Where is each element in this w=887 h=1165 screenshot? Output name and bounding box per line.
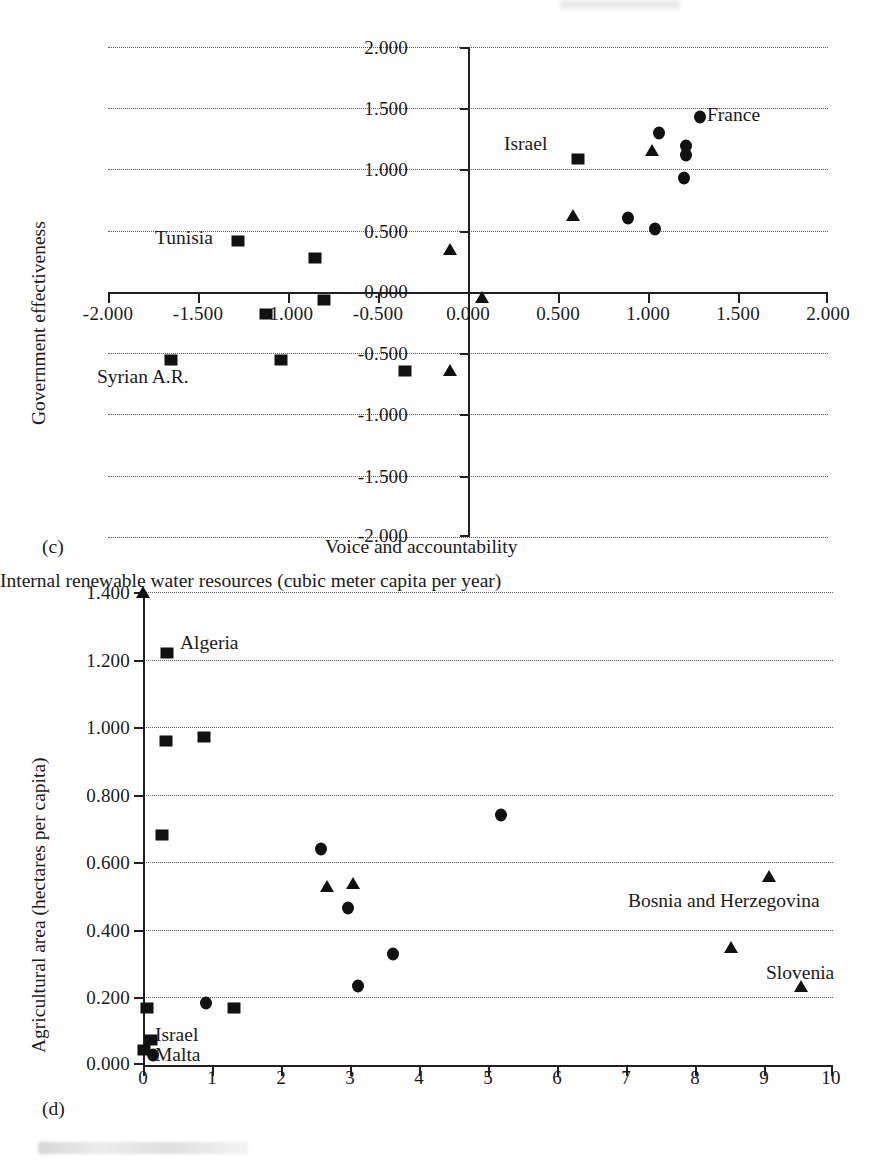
data-point-circle [387,947,399,960]
data-point-square-algeria [161,647,174,658]
data-point-circle [622,212,634,225]
y-tick [134,660,145,662]
x-tick [738,292,740,303]
panel-d-y-tick-label: 0.400 [58,920,130,942]
panel-c-y-axis-title: Government effectiveness [28,221,50,425]
panel-c-x-tick-label: -1.000 [248,303,328,325]
panel-d-x-tick-label: 5 [469,1067,507,1089]
data-point-circle [678,172,690,185]
x-tick [558,292,560,303]
panel-d-y-tick-label: 0.000 [58,1053,130,1075]
panel-c-y-tick-label: 1.500 [338,98,408,120]
data-point-triangle [475,291,489,303]
x-tick [198,292,200,303]
y-tick [134,862,145,864]
y-tick [460,535,470,537]
data-point-circle [653,127,665,140]
point-label-slovenia: Slovenia [766,962,834,984]
y-tick [460,108,470,110]
y-tick [460,476,470,478]
panel-d-x-tick-label: 9 [745,1067,783,1089]
data-point-triangle [136,586,150,598]
panel-c-y-tick-label: -1.000 [330,404,408,426]
data-point-triangle [320,880,334,892]
data-point-square [399,366,412,377]
point-label-bosnia: Bosnia and Herzegovina [628,890,820,912]
data-point-circle [342,902,354,915]
data-point-triangle [566,209,580,221]
panel-c-y-tick-label: 0.500 [338,221,408,243]
panel-c-y-tick-label: -2.000 [330,525,408,547]
panel-c-y-tick-label: -0.500 [330,343,408,365]
data-point-triangle [443,243,457,255]
data-point-circle [649,223,661,236]
panel-d-tag: (d) [42,1098,65,1120]
data-point-square [309,253,322,264]
gridline [143,862,833,863]
panel-c-scatter: Government effectiveness Voice and accou… [0,0,887,570]
gridline [143,930,833,931]
gridline [143,997,833,998]
panel-c-y-axis [468,47,470,537]
y-tick [460,169,470,171]
y-tick [134,1063,145,1065]
data-point-square [275,355,288,366]
point-label-israel: Israel [504,133,547,155]
data-point-circle [680,149,692,162]
data-point-square [198,732,211,743]
panel-c-y-tick-label: 0.000 [338,281,408,303]
panel-d-x-tick-label: 8 [676,1067,714,1089]
x-tick [826,292,828,303]
point-label-france: France [707,104,760,126]
data-point-circle [352,980,364,993]
data-point-square [165,355,178,366]
panel-d-y-axis-title: Agricultural area (hectares per capita) [28,757,50,1053]
y-tick [460,47,470,49]
panel-d-y-tick-label: 1.400 [58,582,130,604]
y-tick [460,353,470,355]
panel-d-x-tick-label: 6 [538,1067,576,1089]
panel-d-y-axis [143,592,145,1065]
panel-c-x-tick-label: 1.500 [700,303,776,325]
panel-c-x-tick-label: -2.000 [68,303,148,325]
data-point-square [156,830,169,841]
data-point-circle [200,996,212,1009]
data-point-square [141,1002,154,1013]
data-point-triangle [346,877,360,889]
figure-page: Government effectiveness Voice and accou… [0,0,887,1165]
data-point-square [228,1002,241,1013]
panel-d-y-tick-label: 0.600 [58,852,130,874]
data-point-triangle-bosnia [762,870,776,882]
panel-c-y-tick-label: -1.500 [330,466,408,488]
panel-c-x-tick-label: 2.000 [790,303,866,325]
panel-d-x-tick-label: 1 [193,1067,231,1089]
gridline [143,660,833,661]
data-point-circle [315,842,327,855]
panel-c-x-tick-label: -1.500 [158,303,238,325]
x-tick [288,292,290,303]
panel-d-x-tick-label: 3 [331,1067,369,1089]
point-label-tunisia: Tunisia [155,227,213,249]
gridline [108,537,828,538]
panel-d-x-tick-label: 2 [262,1067,300,1089]
panel-c-x-tick-label: -0.500 [338,303,418,325]
scan-artifact-caption [38,1142,248,1154]
x-tick [108,292,110,303]
panel-d-x-tick-label: 4 [400,1067,438,1089]
y-tick [460,231,470,233]
panel-d-x-tick-label: 7 [607,1067,645,1089]
panel-c-x-tick-label: 0.000 [430,303,506,325]
y-tick [134,997,145,999]
data-point-triangle [724,941,738,953]
panel-c-y-tick-label: 1.000 [338,159,408,181]
panel-d-x-tick-label: 0 [124,1067,162,1089]
panel-d-y-tick-label: 1.000 [58,717,130,739]
y-tick [134,727,145,729]
point-label-israel: Israel [155,1024,198,1046]
panel-d-y-tick-label: 0.800 [58,785,130,807]
panel-d-y-tick-label: 0.200 [58,987,130,1009]
panel-c-tag: (c) [42,536,64,558]
panel-d-x-tick-label: 10 [810,1067,852,1089]
point-label-malta: Malta [155,1044,200,1066]
panel-d-y-tick-label: 1.200 [58,650,130,672]
